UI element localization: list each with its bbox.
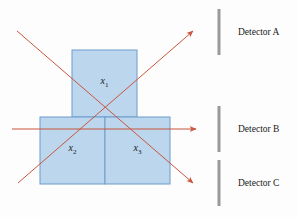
detector-c-label: Detector C [238, 178, 279, 188]
detector-a-label: Detector A [238, 27, 279, 37]
detector-b-label: Detector B [238, 124, 279, 134]
detector-a-bar [218, 9, 221, 55]
diagram-canvas: x1x2x3 Detector A Detector B Detector C [0, 0, 298, 217]
detector-b-bar [218, 106, 221, 152]
material-blocks: x1x2x3 [40, 50, 170, 184]
detector-c-bar [218, 160, 221, 206]
detector-bars [218, 9, 221, 206]
